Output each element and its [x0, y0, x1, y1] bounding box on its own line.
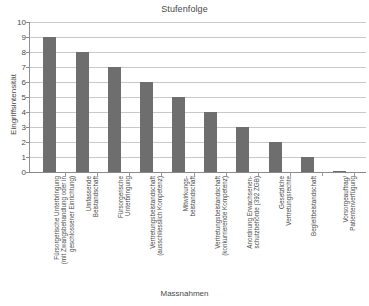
- x-axis-category-label: Vertretungsbeistandschaft(konkurrierende…: [214, 176, 229, 286]
- y-axis-tick-labels: 012345678910: [0, 22, 27, 172]
- x-axis-category-label: Fürsorgerische Unterbringung(mit Zwangsb…: [53, 176, 75, 286]
- chart-title: Stufenfolge: [0, 4, 369, 14]
- bar: [172, 97, 185, 172]
- x-axis-category-label: Mitwirkungs-beistandschaft: [182, 176, 197, 286]
- bar: [108, 67, 121, 172]
- bar: [236, 127, 249, 172]
- x-axis-category-label: GesetzlicheVertretungsrechte: [278, 176, 293, 286]
- bar: [301, 157, 314, 172]
- x-axis-category-label: Begleitbeistandschaft: [310, 176, 317, 286]
- x-axis-category-label: FürsorgerischeUnterbringung: [117, 176, 132, 286]
- bar: [269, 142, 282, 172]
- x-axis-category-label: UmfassendeBeistandschaft: [85, 176, 100, 286]
- x-axis-category-label: Vorsorgeauftrag/Patientenverfügung: [342, 176, 357, 286]
- x-axis-category-labels: Fürsorgerische Unterbringung(mit Zwangsb…: [29, 176, 365, 286]
- plot-area: [29, 22, 365, 172]
- x-axis-category-label: Vertretungsbeistandschaft(ausschliesslic…: [149, 176, 164, 286]
- bar-series: [30, 22, 365, 172]
- y-axis-tick-label: 10: [17, 18, 26, 27]
- bar: [140, 82, 153, 172]
- bar: [204, 112, 217, 172]
- bar: [76, 52, 89, 172]
- x-axis-category-label: Anordnung Erwachsenen-schutzbehörde (392…: [246, 176, 261, 286]
- x-axis-title: Massnahmen: [0, 289, 369, 298]
- bar: [43, 37, 56, 172]
- bar-chart-figure: Stufenfolge Eingriffsintensität 01234567…: [0, 0, 369, 306]
